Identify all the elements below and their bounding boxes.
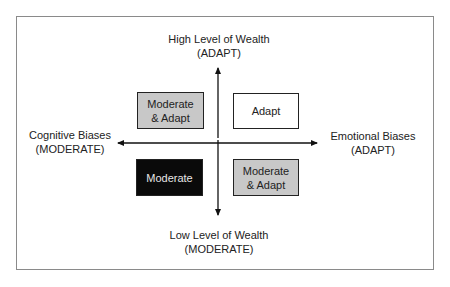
axis-label-left: Cognitive Biases (MODERATE) <box>20 128 120 156</box>
quadrant-top-left-line1: Moderate <box>147 97 193 111</box>
axis-label-right-line2: (ADAPT) <box>318 143 428 157</box>
quadrant-top-right: Adapt <box>233 93 299 129</box>
quadrant-bottom-right-line1: Moderate <box>243 164 289 178</box>
axis-label-bottom-line1: Low Level of Wealth <box>150 228 288 242</box>
quadrant-bottom-right: Moderate & Adapt <box>233 159 299 196</box>
quadrant-top-left-line2: & Adapt <box>147 111 193 125</box>
axis-label-top-line2: (ADAPT) <box>150 46 288 60</box>
axis-label-right-line1: Emotional Biases <box>318 129 428 143</box>
quadrant-bottom-left: Moderate <box>136 159 203 196</box>
axis-label-bottom: Low Level of Wealth (MODERATE) <box>150 228 288 256</box>
quadrant-bottom-left-line1: Moderate <box>146 171 192 185</box>
quadrant-bottom-right-line2: & Adapt <box>243 178 289 192</box>
axis-label-bottom-line2: (MODERATE) <box>150 242 288 256</box>
axis-label-right: Emotional Biases (ADAPT) <box>318 129 428 157</box>
axis-label-top: High Level of Wealth (ADAPT) <box>150 32 288 60</box>
quadrant-top-right-line1: Adapt <box>252 104 281 118</box>
axis-label-left-line1: Cognitive Biases <box>20 128 120 142</box>
axis-label-top-line1: High Level of Wealth <box>150 32 288 46</box>
axis-label-left-line2: (MODERATE) <box>20 142 120 156</box>
quadrant-top-left: Moderate & Adapt <box>137 92 204 129</box>
